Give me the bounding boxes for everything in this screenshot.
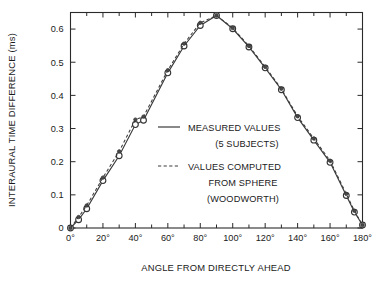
x-tick-label: 180° [353,233,372,243]
x-axis-title: ANGLE FROM DIRECTLY AHEAD [141,262,291,273]
data-point [117,150,120,153]
y-tick-label: 0.3 [51,124,64,134]
data-point [142,115,145,118]
y-tick-label: 0.1 [51,190,64,200]
y-tick-label: 0.2 [51,157,64,167]
data-point [296,115,299,118]
legend-label-woodworth: (WOODWORTH) [207,194,279,204]
data-point [77,215,80,218]
chart-legend: MEASURED VALUES (5 SUBJECTS) VALUES COMP… [158,123,281,204]
data-point [247,44,250,47]
x-tick-label: 140° [288,233,307,243]
y-tick-label: 0.4 [51,91,64,101]
x-tick-label: 120° [256,233,275,243]
x-tick-label: 0° [66,233,75,243]
x-tick-label: 40° [128,233,142,243]
legend-label-computed: VALUES COMPUTED [188,162,281,172]
y-axis-tick-labels: 00.10.20.30.40.50.6 [51,24,64,233]
x-tick-label: 20° [96,233,110,243]
chart-canvas: 0°20°40°60°80°100°120°140°160°180° 00.10… [0,0,391,283]
data-point [353,209,356,212]
data-point [69,226,72,229]
data-point [199,21,202,24]
data-point [101,176,104,179]
chart-figure: 0°20°40°60°80°100°120°140°160°180° 00.10… [0,0,391,283]
y-tick-label: 0 [58,223,63,233]
y-tick-label: 0.5 [51,58,64,68]
x-tick-label: 80° [193,233,207,243]
data-point [263,65,266,68]
y-tick-label: 0.6 [51,24,64,34]
data-point [361,223,364,226]
data-point [182,42,185,45]
data-point [134,118,137,121]
data-point [312,137,315,140]
data-point [132,122,138,128]
data-point [280,87,283,90]
data-point [345,192,348,195]
data-point [215,14,218,17]
data-point [166,68,169,71]
data-point [116,153,122,159]
data-point [328,159,331,162]
x-axis-tick-labels: 0°20°40°60°80°100°120°140°160°180° [66,233,372,243]
data-point [231,26,234,29]
y-axis-title: INTERAURAL TIME DIFFERENCE (ms) [6,33,17,207]
x-tick-label: 160° [321,233,340,243]
x-tick-label: 60° [161,233,175,243]
data-point [85,204,88,207]
x-tick-label: 100° [223,233,242,243]
legend-label-measured: MEASURED VALUES [188,123,280,133]
legend-label-subjects: (5 SUBJECTS) [215,139,279,149]
legend-label-from-sphere: FROM SPHERE [208,178,277,188]
